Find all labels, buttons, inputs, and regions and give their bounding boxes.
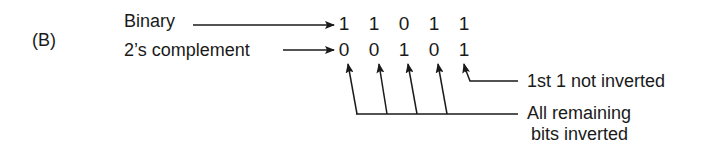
inverted-arrow bbox=[408, 64, 417, 114]
inverted-arrow bbox=[348, 64, 357, 114]
first-one-leader bbox=[465, 68, 518, 81]
first-one-annotation: 1st 1 not inverted bbox=[527, 71, 665, 91]
inverted-arrow bbox=[438, 64, 447, 114]
remaining-annotation-line1: All remaining bbox=[527, 103, 631, 123]
inverted-arrow bbox=[379, 64, 387, 114]
remaining-annotation-line2: bits inverted bbox=[531, 124, 628, 144]
